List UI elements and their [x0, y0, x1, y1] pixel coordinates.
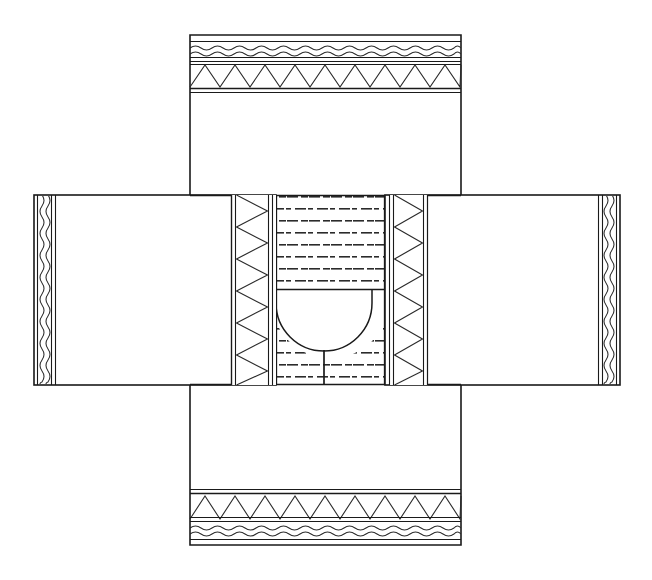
figure-root [0, 0, 652, 580]
left-zigzag-column [231, 195, 276, 385]
right-zigzag-column [389, 195, 429, 385]
center-hatch-region [272, 195, 389, 385]
technical-drawing-canvas [0, 0, 652, 580]
